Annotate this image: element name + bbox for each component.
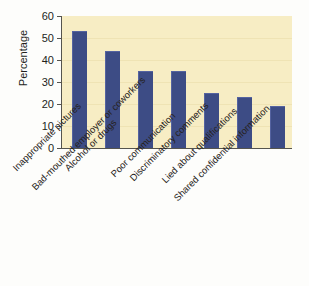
bar-chart: 60 50 40 30 20 10 0 Percentage Inappropr… [0,0,309,286]
x-axis-labels: Inappropriate pictures Alcohol or drugs … [0,0,309,286]
